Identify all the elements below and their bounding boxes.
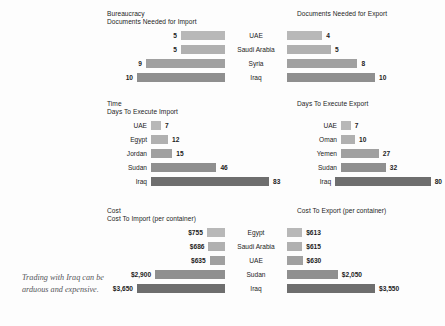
country-label: Iraq [225,285,287,292]
country-label: Yemen [297,150,341,157]
chart-row: $686Saudi Arabia$615 [107,242,437,251]
time-value-label: 46 [216,164,227,171]
import-bar-group: $755 [107,228,225,237]
export-bar-group: 5 [287,45,437,54]
chart-title-import: Documents Needed for Import [107,18,197,26]
import-bar-group: $635 [107,256,225,265]
time-value-label: 7 [351,122,359,129]
time-bar [151,177,269,186]
import-bar-group: 5 [107,45,225,54]
country-label: Iraq [107,178,151,185]
import-bar-group: $2,900 [107,270,225,279]
time-bar [151,135,168,144]
section-header-export: Documents Needed for Export [297,10,387,18]
import-bar-group: 5 [107,31,225,40]
export-bar [287,242,302,251]
time-bar [151,149,172,158]
export-bar-group: $615 [287,242,437,251]
export-value-label: $2,050 [342,271,362,278]
export-bar [287,45,331,54]
country-label: UAE [225,32,287,39]
export-bar [287,228,302,237]
country-label: Sudan [297,164,341,171]
country-label: Saudi Arabia [225,46,287,53]
chart-row: Oman10 [297,135,442,144]
chart-row: $3,650Iraq$3,550 [107,284,437,293]
chart-row: Sudan32 [297,163,442,172]
import-bar-group: $3,650 [107,284,225,293]
export-value-label: 4 [326,32,330,39]
country-label: UAE [225,257,287,264]
time-value-label: 27 [379,150,390,157]
export-value-label: $613 [306,229,321,236]
bureaucracy-paired-chart: 5UAE45Saudi Arabia59Syria810Iraq10 [107,31,437,87]
time-value-label: 80 [431,178,442,185]
time-bar [151,121,161,130]
chart-row: Iraq80 [297,177,442,186]
chart-row: $2,900Sudan$2,050 [107,270,437,279]
import-bar [137,73,225,82]
chart-title-time-import: Days To Execute Import [107,108,178,116]
time-bar [151,163,216,172]
import-bar [155,270,225,279]
chart-title-cost-import: Cost To Import (per container) [107,215,196,223]
import-bar [208,242,225,251]
export-bar [287,31,322,40]
country-label: Oman [297,136,341,143]
import-value-label: $755 [188,229,203,236]
export-bar-group: 8 [287,59,437,68]
export-bar-group: $2,050 [287,270,437,279]
country-label: Sudan [107,164,151,171]
chart-row: $635UAE$630 [107,256,437,265]
country-label: Iraq [225,74,287,81]
section-category-label: Cost [107,207,196,215]
country-label: Jordan [107,150,151,157]
chart-row: $755Egypt$613 [107,228,437,237]
import-bar [210,256,225,265]
chart-row: UAE7 [297,121,442,130]
time-bar [341,121,351,130]
export-bar-group: $613 [287,228,437,237]
section-header-cost-export: Cost To Export (per container) [297,207,386,215]
import-value-label: 10 [126,74,133,81]
chart-row: 5UAE4 [107,31,437,40]
import-bar-group: 9 [107,59,225,68]
import-value-label: $2,900 [131,271,151,278]
export-value-label: $615 [306,243,321,250]
infographic-canvas: Bureaucracy Documents Needed for Import … [0,0,445,326]
section-category-label: Time [107,100,178,108]
country-label: UAE [297,122,341,129]
import-bar [181,31,225,40]
chart-row: Egypt12 [107,135,287,144]
export-value-label: 8 [361,60,365,67]
import-value-label: 9 [138,60,142,67]
time-value-label: 15 [172,150,183,157]
chart-row: 5Saudi Arabia5 [107,45,437,54]
export-bar [287,73,375,82]
country-label: Egypt [225,229,287,236]
export-bar [287,284,375,293]
chart-row: 9Syria8 [107,59,437,68]
export-bar [287,270,338,279]
import-bar-group: $686 [107,242,225,251]
export-bar-group: $630 [287,256,437,265]
export-bar [287,256,303,265]
chart-row: Jordan15 [107,149,287,158]
country-label: Egypt [107,136,151,143]
export-bar-group: $3,550 [287,284,437,293]
import-bar [137,284,225,293]
time-bar [341,149,379,158]
chart-row: Yemen27 [297,149,442,158]
time-bar [335,177,431,186]
import-bar-group: 10 [107,73,225,82]
caption-text: Trading with Iraq can be arduous and exp… [22,272,118,295]
section-header-time-import: Time Days To Execute Import [107,100,178,116]
export-bar-group: 4 [287,31,437,40]
country-label: Saudi Arabia [225,243,287,250]
time-bar [341,135,355,144]
section-category-label: Bureaucracy [107,10,197,18]
time-value-label: 83 [269,178,280,185]
time-value-label: 12 [168,136,179,143]
import-value-label: 5 [173,32,177,39]
cost-paired-chart: $755Egypt$613$686Saudi Arabia$615$635UAE… [107,228,437,298]
